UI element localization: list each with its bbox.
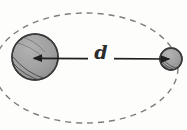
diagram-canvas: d [0, 0, 187, 130]
primary-body-group [12, 34, 58, 88]
distance-label: d [88, 41, 114, 63]
orbital-distance-diagram [0, 0, 187, 130]
